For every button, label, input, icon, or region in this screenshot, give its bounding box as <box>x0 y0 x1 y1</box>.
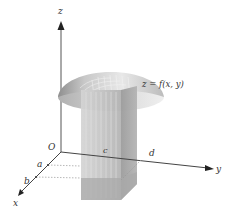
double-integral-diagram: z x y <box>0 0 232 212</box>
y-tick-label-d: d <box>149 148 155 158</box>
x-tick-label-b: b <box>24 176 30 186</box>
x-axis-label: x <box>13 198 18 208</box>
tick-a <box>47 164 49 166</box>
surface-label: z = f(x, y) <box>141 79 184 89</box>
z-axis-arrow-icon <box>58 21 65 30</box>
y-axis-label: y <box>215 164 222 174</box>
z-axis-label: z <box>57 6 63 16</box>
origin-label: O <box>48 142 56 152</box>
y-axis-arrow-icon <box>205 165 214 171</box>
x-tick-label-a: a <box>37 159 42 169</box>
y-tick-label-c: c <box>103 146 108 155</box>
tick-b <box>35 176 37 178</box>
